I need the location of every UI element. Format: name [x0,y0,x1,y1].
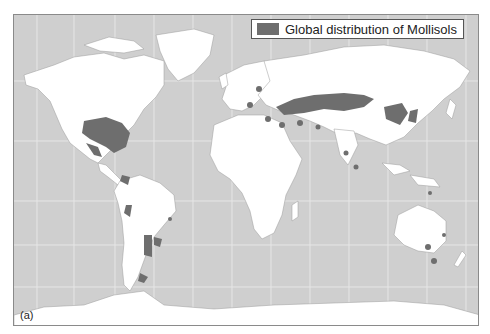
panel-label: (a) [20,309,33,321]
world-map [13,14,479,326]
map-canvas [14,15,479,326]
legend-label: Global distribution of Mollisols [285,22,457,37]
map-legend: Global distribution of Mollisols [251,19,464,39]
mollisol-swatch [257,23,279,35]
continents [14,29,479,326]
